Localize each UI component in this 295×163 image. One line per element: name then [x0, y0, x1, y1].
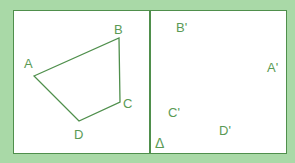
label-b: B [114, 23, 123, 36]
label-c-prime: C' [168, 106, 180, 119]
quadrilateral-shape [34, 38, 120, 121]
label-d-prime: D' [219, 124, 231, 137]
label-d: D [74, 128, 83, 141]
label-b-prime: B' [176, 21, 187, 34]
delta-line-label: Δ [155, 137, 164, 150]
label-a: A [24, 57, 33, 70]
label-c: C [123, 97, 132, 110]
label-a-prime: A' [267, 61, 278, 74]
quadrilateral-abcd [0, 0, 295, 163]
